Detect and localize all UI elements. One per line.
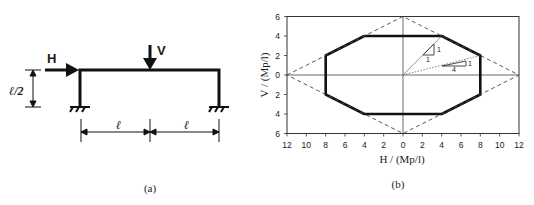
slope-triangle-1-1: 1 1: [423, 44, 441, 63]
x-tick-label: 0: [401, 140, 406, 150]
frame-diagram: H V ℓ/2 ℓ ℓ (a): [9, 43, 229, 195]
interaction-chart: 121086420246810126420246 1 1 1 4 H / (Mp…: [258, 12, 524, 192]
x-tick-label: 6: [343, 140, 348, 150]
x-tick-label: 12: [282, 140, 292, 150]
rise-label: 1: [468, 60, 472, 67]
x-tick-label: 2: [420, 140, 425, 150]
y-tick-label: 2: [275, 90, 280, 100]
x-tick-label: 4: [439, 140, 444, 150]
tick-labels: 121086420246810126420246: [275, 12, 524, 151]
y-tick-label: 4: [275, 109, 280, 119]
fixed-support-left: [70, 107, 90, 112]
figure-canvas: H V ℓ/2 ℓ ℓ (a): [0, 0, 534, 205]
y-tick-label: 6: [275, 12, 280, 22]
y-tick-label: 4: [275, 31, 280, 41]
y-axis-label: V / (Mp/l): [258, 52, 271, 97]
x-axis-label: H / (Mp/l): [379, 153, 425, 166]
y-tick-label: 6: [275, 129, 280, 139]
span-left-label: ℓ: [116, 118, 121, 132]
ray-slope-1-line: [403, 36, 442, 75]
y-tick-label: 2: [275, 51, 280, 61]
rise-label: 1: [437, 46, 441, 53]
slope-triangle-1-4: 1 4: [442, 60, 472, 73]
load-v-label: V: [157, 43, 166, 58]
x-tick-label: 6: [459, 140, 464, 150]
caption-b: (b): [392, 178, 405, 191]
fixed-support-right: [209, 107, 229, 112]
vertical-load-arrow-icon: [143, 45, 157, 70]
run-label: 4: [452, 66, 456, 73]
height-dimension: [25, 70, 41, 107]
run-label: 1: [426, 56, 430, 63]
y-tick-label: 0: [275, 70, 280, 80]
x-tick-label: 8: [323, 140, 328, 150]
caption-a: (a): [144, 182, 157, 195]
x-tick-label: 10: [302, 140, 312, 150]
x-tick-label: 2: [381, 140, 386, 150]
span-right-label: ℓ: [184, 118, 189, 132]
span-dimension: [81, 119, 219, 142]
height-dim-label: ℓ/2: [9, 84, 23, 98]
x-tick-label: 10: [495, 140, 505, 150]
x-tick-label: 12: [514, 140, 524, 150]
x-tick-label: 8: [478, 140, 483, 150]
portal-frame: [80, 70, 219, 106]
x-tick-label: 4: [362, 140, 367, 150]
load-h-label: H: [47, 51, 56, 66]
